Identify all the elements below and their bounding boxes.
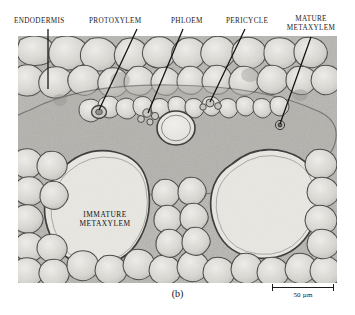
in-image-label-immature-metaxylem: IMMATURE METAXYLEM bbox=[62, 210, 148, 229]
callout-label-mature-metaxylem: MATURE METAXYLEM bbox=[279, 15, 343, 32]
leader-line-protoxylem bbox=[99, 29, 137, 110]
callout-label-pericycle: PERICYCLE bbox=[226, 17, 268, 26]
figure-caption: (b) bbox=[0, 288, 355, 299]
callout-label-phloem: PHLOEM bbox=[171, 17, 203, 26]
callout-label-protoxylem: PROTOXYLEM bbox=[89, 17, 142, 26]
leader-line-phloem bbox=[148, 29, 183, 113]
leader-line-pericycle bbox=[210, 29, 245, 102]
immature-metaxylem-line1: IMMATURE bbox=[62, 210, 148, 219]
leader-line-mature-metaxylem bbox=[280, 37, 311, 124]
figure-root-cross-section: ENDODERMIS PROTOXYLEM PHLOEM PERICYCLE M… bbox=[0, 0, 355, 315]
leader-lines-layer bbox=[0, 0, 355, 315]
callout-label-endodermis: ENDODERMIS bbox=[14, 17, 65, 26]
immature-metaxylem-line2: METAXYLEM bbox=[62, 219, 148, 228]
